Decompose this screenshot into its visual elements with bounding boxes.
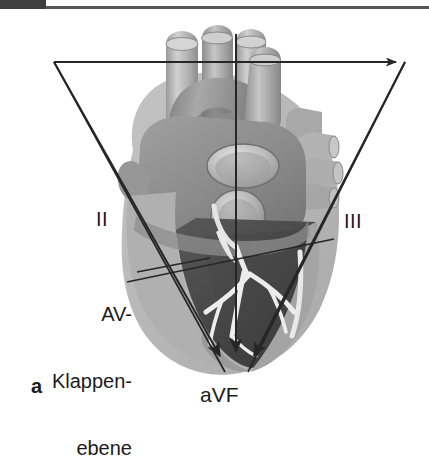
- vessel-left-carotid-rim: [202, 32, 233, 44]
- vessel-brachiocephalic-rim: [166, 38, 198, 51]
- av-plane-label-line3: ebene: [14, 437, 132, 459]
- lead-label-aVF: aVF: [200, 383, 239, 407]
- pulmonary-vein-upper-rim: [329, 136, 339, 158]
- pulmonary-trunk-rim: [250, 54, 281, 66]
- valve-orifice-upper-inner: [215, 152, 271, 184]
- pulmonary-vein-mid-rim: [333, 162, 343, 184]
- lead-label-II: II: [96, 208, 108, 230]
- av-plane-label: AV- Klappen- ebene: [14, 258, 132, 459]
- heart-anatomy-group: [118, 25, 343, 375]
- lead-label-III: III: [344, 210, 362, 232]
- figure-part-label: a: [31, 375, 42, 397]
- av-plane-label-line1: AV-: [14, 303, 132, 325]
- vessel-left-subclavian-rim: [236, 36, 266, 48]
